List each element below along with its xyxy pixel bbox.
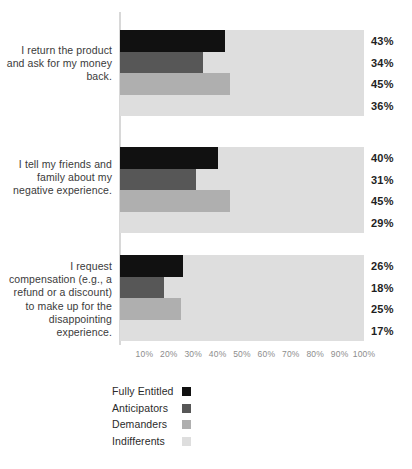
bar-value-label: 26% (371, 260, 411, 272)
bar (120, 30, 225, 52)
legend-item-label: Fully Entitled (112, 385, 182, 398)
bar (120, 73, 230, 95)
bar-value-label: 29% (371, 217, 411, 229)
chart-legend: Fully EntitledAnticipatorsDemandersIndif… (112, 385, 262, 451)
bar (120, 52, 203, 74)
bar (120, 212, 191, 234)
plot-area: I return the product and ask for my mone… (0, 0, 412, 345)
x-axis-tick-labels: 10%20%30%40%50%60%70%80%90%100% (120, 349, 376, 363)
bar-value-label: 17% (371, 325, 411, 337)
x-axis-tick-label: 80% (306, 349, 324, 359)
legend-item[interactable]: Indifferents (112, 435, 262, 452)
legend-item[interactable]: Fully Entitled (112, 385, 262, 402)
bar-value-label: 18% (371, 282, 411, 294)
bar (120, 95, 208, 117)
bar-value-label: 31% (371, 174, 411, 186)
legend-item-label: Anticipators (112, 402, 182, 415)
legend-item[interactable]: Demanders (112, 418, 262, 435)
bar-value-label: 34% (371, 57, 411, 69)
x-axis-tick-label: 50% (233, 349, 251, 359)
legend-color-swatch (182, 404, 191, 413)
x-axis-tick-label: 20% (160, 349, 178, 359)
x-axis-tick-label: 10% (136, 349, 154, 359)
x-axis-tick-label: 90% (331, 349, 349, 359)
legend-color-swatch (182, 437, 191, 446)
bar (120, 277, 164, 299)
bar-group-label: I request compensation (e.g., a refund o… (4, 260, 112, 339)
bar (120, 190, 230, 212)
bar-value-label: 40% (371, 152, 411, 164)
legend-color-swatch (182, 387, 191, 396)
bar (120, 255, 183, 277)
x-axis-tick-label: 100% (353, 349, 376, 359)
bar (120, 298, 181, 320)
x-axis-tick-label: 40% (209, 349, 227, 359)
legend-item-label: Demanders (112, 418, 182, 431)
bar (120, 147, 218, 169)
bar-value-label: 36% (371, 100, 411, 112)
bar-group-label: I return the product and ask for my mone… (4, 44, 112, 84)
grouped-bar-chart: I return the product and ask for my mone… (0, 0, 412, 469)
bar-value-label: 43% (371, 35, 411, 47)
bar-value-label: 25% (371, 303, 411, 315)
x-axis-tick-label: 70% (282, 349, 300, 359)
bar (120, 320, 161, 342)
legend-item[interactable]: Anticipators (112, 402, 262, 419)
x-axis-tick-label: 60% (258, 349, 276, 359)
bar-value-label: 45% (371, 78, 411, 90)
legend-color-swatch (182, 420, 191, 429)
bar-value-label: 45% (371, 195, 411, 207)
x-axis-tick-label: 30% (184, 349, 202, 359)
legend-item-label: Indifferents (112, 435, 182, 448)
bar (120, 169, 196, 191)
bar-group-label: I tell my friends and family about my ne… (4, 158, 112, 198)
